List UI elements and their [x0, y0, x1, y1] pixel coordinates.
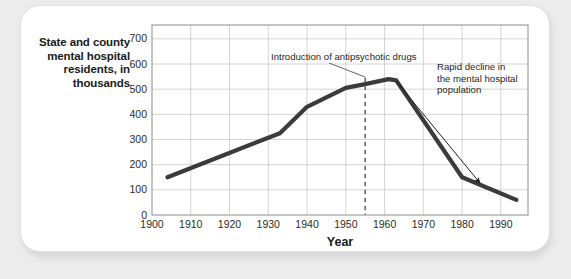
y-tick-300: 300 — [129, 133, 147, 145]
line-chart: 0100200300400500600700 19001910192019301… — [0, 0, 571, 279]
x-tick-1970: 1970 — [412, 218, 436, 230]
x-axis-tick-labels: 1900191019201930194019501960197019801990 — [140, 218, 512, 230]
y-axis-tick-labels: 0100200300400500600700 — [129, 32, 147, 220]
x-tick-1940: 1940 — [295, 218, 319, 230]
plot-wrapper: 0100200300400500600700 19001910192019301… — [0, 0, 571, 279]
annotation-2-line-3: population — [437, 84, 481, 95]
annotation-rapid-decline: Rapid decline inthe mental hospitalpopul… — [437, 61, 518, 95]
x-tick-1920: 1920 — [218, 218, 242, 230]
annotation-introduction-of-antipsychotic-drugs: Introduction of antipsychotic drugs — [271, 51, 417, 62]
figure-root: State and county mental hospital residen… — [0, 0, 571, 279]
x-tick-1930: 1930 — [257, 218, 281, 230]
y-tick-100: 100 — [129, 183, 147, 195]
y-tick-200: 200 — [129, 158, 147, 170]
annotation-2-line-2: the mental hospital — [437, 73, 518, 84]
x-tick-1910: 1910 — [179, 218, 203, 230]
x-tick-1960: 1960 — [373, 218, 397, 230]
y-tick-400: 400 — [129, 108, 147, 120]
annotation-2-line-1: Rapid decline in — [437, 61, 505, 72]
x-tick-1990: 1990 — [489, 218, 513, 230]
y-tick-600: 600 — [129, 58, 147, 70]
x-tick-1900: 1900 — [140, 218, 164, 230]
x-tick-1980: 1980 — [450, 218, 474, 230]
annotation-layer: Introduction of antipsychotic drugsRapid… — [271, 51, 518, 215]
x-axis-title: Year — [327, 235, 354, 249]
y-tick-700: 700 — [129, 32, 147, 44]
y-tick-500: 500 — [129, 83, 147, 95]
annotation-1-leader-line — [329, 63, 365, 77]
x-tick-1950: 1950 — [334, 218, 358, 230]
rapid-decline-arrow-icon — [396, 81, 480, 183]
